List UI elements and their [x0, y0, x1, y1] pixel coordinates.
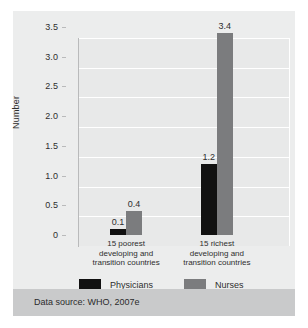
- y-tick-label: 0: [13, 230, 58, 240]
- gridline: [79, 127, 289, 128]
- legend-label: Nurses: [215, 280, 244, 290]
- gridline: [79, 68, 289, 69]
- bar-nurses-0: [126, 211, 142, 235]
- y-tick-label: 3.5: [13, 22, 58, 32]
- gridline: [79, 157, 289, 158]
- y-tick-mark: [62, 205, 66, 206]
- bar-value-label: 1.2: [203, 152, 216, 162]
- chart-card: Number 3.53.02.52.01.51.00.50 0.11.20.43…: [13, 11, 295, 316]
- gridline: [79, 216, 289, 217]
- y-tick-label: 2.0: [13, 111, 58, 121]
- figure-container: Number 3.53.02.52.01.51.00.50 0.11.20.43…: [0, 0, 308, 328]
- y-tick-label: 0.5: [13, 200, 58, 210]
- plot-area: [79, 38, 290, 246]
- y-axis-line: [78, 38, 79, 247]
- y-tick-mark: [62, 146, 66, 147]
- y-tick-label: 2.5: [13, 81, 58, 91]
- x-category-line: 15 richest: [162, 239, 272, 249]
- gridline: [79, 38, 289, 39]
- y-tick-mark: [62, 235, 66, 236]
- gridline: [79, 97, 289, 98]
- y-tick-mark: [62, 27, 66, 28]
- x-category-line: transition countries: [162, 258, 272, 268]
- bar-physicians-1: [201, 164, 217, 235]
- gridline: [79, 187, 289, 188]
- bar-physicians-0: [110, 229, 126, 235]
- source-note: Data source: WHO, 2007e: [34, 297, 140, 307]
- y-tick-label: 1.5: [13, 141, 58, 151]
- legend-label: Physicians: [110, 280, 153, 290]
- bar-nurses-1: [217, 33, 233, 235]
- y-tick-mark: [62, 57, 66, 58]
- y-tick-label: 3.0: [13, 52, 58, 62]
- source-bar: Data source: WHO, 2007e: [13, 289, 295, 316]
- y-tick-mark: [62, 86, 66, 87]
- bar-value-label: 3.4: [219, 21, 232, 31]
- y-tick-mark: [62, 176, 66, 177]
- x-category-label: 15 richestdeveloping andtransition count…: [162, 239, 272, 268]
- x-category-line: developing and: [162, 249, 272, 259]
- y-tick-mark: [62, 116, 66, 117]
- bar-value-label: 0.4: [128, 199, 141, 209]
- y-tick-label: 1.0: [13, 171, 58, 181]
- bar-value-label: 0.1: [112, 217, 125, 227]
